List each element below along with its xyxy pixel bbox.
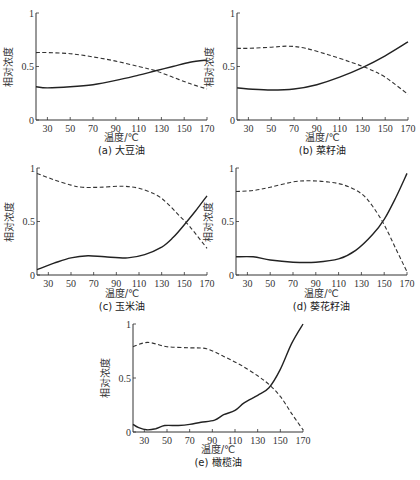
x-tick-label: 150: [378, 123, 393, 134]
y-tick-label: 0: [229, 270, 234, 281]
chart-olive-oil: 00.5130507090110130150170温度/℃相对浓度(e) 橄榄油: [99, 319, 311, 469]
chart-soybean-oil: 00.5130507090110130150170温度/℃相对浓度(a) 大豆油: [2, 8, 215, 157]
series-line-dashed: [37, 173, 207, 248]
x-axis-label: 温度/℃: [201, 443, 236, 455]
series-line-solid: [236, 173, 407, 262]
x-tick-label: 70: [185, 435, 195, 446]
x-tick-label: 70: [288, 278, 298, 289]
series-line-solid: [37, 196, 207, 270]
x-tick-label: 50: [162, 435, 172, 446]
x-tick-label: 130: [154, 123, 169, 134]
series-line-solid: [133, 324, 303, 430]
y-tick-label: 1: [230, 8, 235, 19]
y-tick-label: 1: [126, 319, 131, 330]
x-tick-label: 130: [154, 278, 169, 289]
x-axis-label: 温度/℃: [304, 287, 339, 299]
x-tick-label: 50: [265, 278, 275, 289]
y-tick-label: 0.5: [23, 216, 36, 227]
x-tick-label: 170: [200, 123, 215, 134]
y-tick-label: 0: [29, 115, 34, 126]
x-tick-label: 50: [66, 278, 76, 289]
chart-corn-oil: 00.5130507090110130150170温度/℃相对浓度(c) 玉米油: [3, 163, 215, 313]
x-tick-label: 50: [266, 123, 276, 134]
x-tick-label: 170: [200, 278, 215, 289]
chart-caption: (c) 玉米油: [99, 300, 145, 312]
chart-caption: (e) 橄榄油: [194, 456, 241, 468]
y-tick-label: 0: [230, 115, 235, 126]
x-axis-label: 温度/℃: [105, 287, 140, 299]
y-tick-label: 0.5: [222, 216, 235, 227]
x-tick-label: 30: [242, 278, 252, 289]
x-tick-label: 150: [377, 278, 392, 289]
y-axis-label: 相对浓度: [203, 47, 215, 87]
y-tick-label: 1: [229, 163, 234, 174]
x-tick-label: 70: [89, 278, 99, 289]
y-tick-label: 1: [30, 163, 35, 174]
series-line-dashed: [36, 53, 207, 89]
figure-canvas: 00.5130507090110130150170温度/℃相对浓度(a) 大豆油…: [0, 0, 420, 480]
x-tick-label: 150: [177, 278, 192, 289]
x-tick-label: 30: [139, 435, 149, 446]
chart-caption: (d) 葵花籽油: [293, 300, 350, 312]
x-axis-label: 温度/℃: [305, 131, 340, 143]
series-line-dashed: [237, 46, 408, 94]
x-tick-label: 50: [65, 123, 75, 134]
x-tick-label: 30: [43, 278, 53, 289]
y-axis-label: 相对浓度: [202, 202, 214, 242]
x-tick-label: 130: [354, 278, 369, 289]
x-tick-label: 150: [273, 435, 288, 446]
y-tick-label: 0: [126, 427, 131, 438]
y-tick-label: 1: [29, 8, 34, 19]
x-tick-label: 70: [289, 123, 299, 134]
y-tick-label: 0.5: [223, 61, 236, 72]
series-line-dashed: [133, 342, 303, 429]
y-tick-label: 0.5: [22, 61, 35, 72]
x-tick-label: 30: [42, 123, 52, 134]
x-tick-label: 170: [400, 278, 415, 289]
y-axis-label: 相对浓度: [3, 202, 15, 242]
y-axis-label: 相对浓度: [99, 358, 111, 398]
y-tick-label: 0.5: [119, 373, 132, 384]
chart-caption: (b) 菜籽油: [299, 144, 346, 156]
x-axis-label: 温度/℃: [104, 131, 139, 143]
x-tick-label: 170: [401, 123, 416, 134]
y-axis-label: 相对浓度: [2, 47, 14, 87]
x-tick-label: 130: [355, 123, 370, 134]
series-line-solid: [36, 60, 207, 88]
x-tick-label: 170: [296, 435, 311, 446]
x-tick-label: 130: [250, 435, 265, 446]
y-tick-label: 0: [30, 270, 35, 281]
x-tick-label: 70: [88, 123, 98, 134]
series-line-solid: [237, 42, 408, 90]
chart-caption: (a) 大豆油: [98, 144, 145, 156]
chart-sunflower-oil: 00.5130507090110130150170温度/℃相对浓度(d) 葵花籽…: [202, 163, 415, 313]
chart-rapeseed-oil: 00.5130507090110130150170温度/℃相对浓度(b) 菜籽油: [203, 8, 416, 157]
x-tick-label: 150: [177, 123, 192, 134]
x-tick-label: 30: [243, 123, 253, 134]
